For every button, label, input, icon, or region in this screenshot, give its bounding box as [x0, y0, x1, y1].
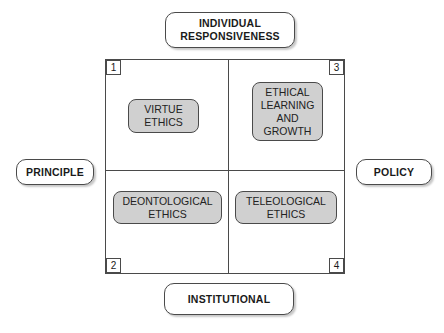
- learning-line-1: ETHICAL: [261, 86, 315, 99]
- axis-label-top: INDIVIDUAL RESPONSIVENESS: [165, 12, 295, 48]
- deontological-line-1: DEONTOLOGICAL: [122, 195, 212, 208]
- learning-line-3: AND: [261, 112, 315, 125]
- horizontal-divider: [106, 170, 344, 171]
- deontological-line-2: ETHICS: [122, 208, 212, 221]
- learning-line-4: GROWTH: [261, 125, 315, 138]
- axis-label-left: PRINCIPLE: [16, 159, 94, 185]
- learning-line-2: LEARNING: [261, 99, 315, 112]
- axis-left-text: PRINCIPLE: [26, 166, 84, 179]
- quadrant-virtue-ethics: VIRTUE ETHICS: [128, 99, 199, 133]
- quadrant-number-1: 1: [106, 60, 121, 75]
- virtue-line-1: VIRTUE: [144, 103, 183, 116]
- teleological-line-1: TELEOLOGICAL: [246, 195, 326, 208]
- axis-top-line-2: RESPONSIVENESS: [180, 30, 280, 43]
- virtue-line-2: ETHICS: [144, 116, 183, 129]
- vertical-divider: [228, 60, 229, 273]
- axis-top-line-1: INDIVIDUAL: [180, 17, 280, 30]
- quadrant-number-4: 4: [329, 258, 344, 273]
- quadrant-ethical-learning-growth: ETHICAL LEARNING AND GROWTH: [252, 82, 323, 141]
- quadrant-number-3: 3: [329, 60, 344, 75]
- quadrant-teleological-ethics: TELEOLOGICAL ETHICS: [235, 191, 337, 224]
- teleological-line-2: ETHICS: [246, 208, 326, 221]
- axis-label-right: POLICY: [356, 159, 432, 185]
- quadrant-deontological-ethics: DEONTOLOGICAL ETHICS: [113, 191, 222, 224]
- quadrant-number-2: 2: [106, 258, 121, 273]
- axis-label-bottom: INSTITUTIONAL: [164, 283, 294, 315]
- axis-right-text: POLICY: [374, 166, 414, 179]
- axis-bottom-text: INSTITUTIONAL: [188, 293, 271, 306]
- quadrant-grid: 1 3 2 4 VIRTUE ETHICS ETHICAL LEARNING A…: [105, 59, 345, 274]
